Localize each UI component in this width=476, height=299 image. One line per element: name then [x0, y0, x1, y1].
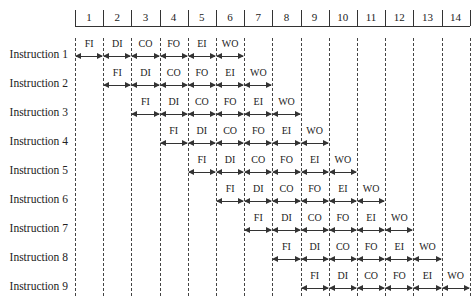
stage-segment: EI	[244, 108, 272, 118]
stage-label: FI	[272, 241, 300, 252]
arrow-left-icon	[244, 198, 250, 204]
arrow-left-icon	[301, 256, 307, 262]
stage-label: DI	[103, 38, 131, 49]
arrow-left-icon	[329, 227, 335, 233]
arrow-left-icon	[301, 285, 307, 291]
stage-segment: WO	[272, 108, 300, 118]
time-slot-label: 1	[75, 11, 103, 23]
stage-segment: DI	[329, 282, 357, 292]
stage-label: FO	[329, 212, 357, 223]
stage-segment: FO	[160, 50, 188, 60]
stage-label: DI	[216, 154, 244, 165]
arrow-left-icon	[357, 256, 363, 262]
arrow-left-icon	[442, 285, 448, 291]
stage-segment: FO	[188, 79, 216, 89]
arrow-left-icon	[329, 169, 335, 175]
stage-segment: WO	[385, 224, 413, 234]
stage-segment: EI	[413, 282, 441, 292]
stage-segment: CO	[244, 166, 272, 176]
stage-segment: CO	[216, 137, 244, 147]
stage-label: DI	[301, 241, 329, 252]
stage-segment: WO	[216, 50, 244, 60]
stage-segment: WO	[301, 137, 329, 147]
arrow-left-icon	[244, 140, 250, 146]
arrow-left-icon	[103, 53, 109, 59]
stage-label: EI	[413, 270, 441, 281]
stage-label: EI	[272, 125, 300, 136]
stage-label: DI	[131, 67, 159, 78]
stage-segment: DI	[244, 195, 272, 205]
time-slot-label: 4	[160, 11, 188, 23]
stage-segment: CO	[131, 50, 159, 60]
arrow-left-icon	[272, 140, 278, 146]
stage-label: DI	[329, 270, 357, 281]
arrow-left-icon	[385, 256, 391, 262]
instruction-label: Instruction 5	[0, 164, 68, 176]
stage-segment: FI	[301, 282, 329, 292]
time-slot-label: 7	[244, 11, 272, 23]
arrow-left-icon	[216, 53, 222, 59]
stage-label: EI	[357, 212, 385, 223]
stage-label: FO	[301, 183, 329, 194]
stage-segment: EI	[301, 166, 329, 176]
stage-segment: FI	[160, 137, 188, 147]
stage-label: FO	[272, 154, 300, 165]
arrow-left-icon	[272, 198, 278, 204]
arrow-left-icon	[131, 53, 137, 59]
stage-segment: WO	[442, 282, 470, 292]
stage-segment: FI	[272, 253, 300, 263]
stage-label: CO	[216, 125, 244, 136]
stage-segment: DI	[188, 137, 216, 147]
arrow-left-icon	[131, 111, 137, 117]
stage-label: EI	[244, 96, 272, 107]
time-divider-line	[470, 38, 471, 296]
stage-label: FO	[216, 96, 244, 107]
arrow-left-icon	[244, 82, 250, 88]
stage-label: FO	[244, 125, 272, 136]
stage-label: FI	[216, 183, 244, 194]
stage-label: FI	[75, 38, 103, 49]
stage-label: EI	[385, 241, 413, 252]
stage-segment: CO	[357, 282, 385, 292]
arrow-right-icon	[295, 111, 301, 117]
arrow-left-icon	[272, 227, 278, 233]
stage-label: DI	[188, 125, 216, 136]
arrow-left-icon	[188, 169, 194, 175]
stage-label: WO	[385, 212, 413, 223]
arrow-left-icon	[272, 256, 278, 262]
stage-segment: FI	[131, 108, 159, 118]
arrow-left-icon	[103, 82, 109, 88]
stage-segment: FO	[272, 166, 300, 176]
stage-label: FI	[103, 67, 131, 78]
arrow-right-icon	[379, 198, 385, 204]
time-slot-label: 5	[188, 11, 216, 23]
stage-label: WO	[301, 125, 329, 136]
stage-label: WO	[244, 67, 272, 78]
stage-segment: DI	[103, 50, 131, 60]
stage-segment: FI	[75, 50, 103, 60]
stage-segment: DI	[301, 253, 329, 263]
stage-label: CO	[329, 241, 357, 252]
stage-label: FO	[188, 67, 216, 78]
time-divider-line	[442, 38, 443, 296]
time-slot-label: 8	[272, 11, 300, 23]
arrow-left-icon	[188, 140, 194, 146]
arrow-left-icon	[216, 198, 222, 204]
stage-label: DI	[272, 212, 300, 223]
stage-label: CO	[357, 270, 385, 281]
arrow-left-icon	[216, 140, 222, 146]
arrow-right-icon	[351, 169, 357, 175]
stage-label: CO	[272, 183, 300, 194]
ruler-tick	[470, 10, 471, 26]
arrow-left-icon	[160, 53, 166, 59]
stage-segment: FI	[188, 166, 216, 176]
stage-label: WO	[216, 38, 244, 49]
instruction-label: Instruction 9	[0, 280, 68, 292]
stage-segment: DI	[216, 166, 244, 176]
arrow-left-icon	[160, 111, 166, 117]
stage-label: WO	[442, 270, 470, 281]
arrow-left-icon	[413, 285, 419, 291]
time-slot-label: 13	[413, 11, 441, 23]
stage-label: FI	[131, 96, 159, 107]
instruction-label: Instruction 8	[0, 251, 68, 263]
